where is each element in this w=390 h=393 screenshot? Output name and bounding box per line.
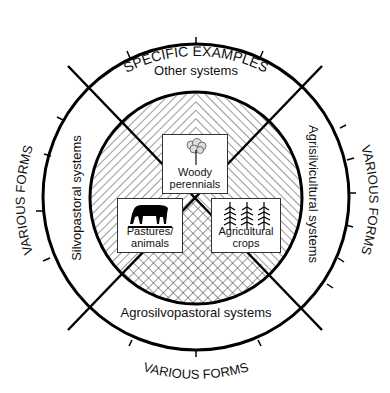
component-box-agricultural-crops: Agricultural crops bbox=[211, 198, 281, 253]
component-label-line2: crops bbox=[212, 237, 280, 249]
middle-label-top: Other systems bbox=[154, 63, 238, 78]
component-box-pastures-animals: Pastures/ animals bbox=[117, 198, 183, 253]
component-box-woody-perennials: Woody perennials bbox=[162, 134, 228, 194]
component-label-line2: animals bbox=[118, 237, 182, 249]
middle-label-right: Agrisilvicultural systems bbox=[306, 125, 321, 263]
middle-label-left: Silvopastoral systems bbox=[69, 135, 84, 261]
component-label-line2: perennials bbox=[163, 178, 227, 190]
outer-label-left: VARIOUS FORMS bbox=[13, 143, 36, 257]
component-label-line1: Pastures/ bbox=[118, 225, 182, 237]
component-label-line1: Agricultural bbox=[212, 225, 280, 237]
outer-label-right: VARIOUS FORMS bbox=[358, 143, 381, 257]
agroforestry-diagram: SPECIFIC EXAMPLES VARIOUS FORMS VARIOUS … bbox=[0, 0, 390, 393]
component-label-line1: Woody bbox=[163, 166, 227, 178]
middle-label-bottom: Agrosilvopastoral systems bbox=[121, 305, 272, 320]
outer-label-bottom: VARIOUS FORMS bbox=[142, 359, 251, 382]
tree-icon bbox=[181, 137, 211, 167]
